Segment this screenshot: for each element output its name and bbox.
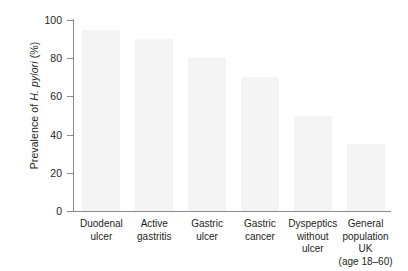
bar: [188, 58, 226, 211]
y-axis-title: Prevalence of H. pylori (%): [22, 0, 46, 211]
x-axis-category-label: Gastric ulcer: [177, 218, 238, 243]
x-axis-line: [73, 211, 391, 212]
bar: [135, 39, 173, 211]
y-axis-tick-label: 100: [22, 15, 62, 25]
x-axis-category-label: Duodenal ulcer: [71, 218, 132, 243]
y-axis-tick-label: 60: [22, 91, 62, 101]
y-axis-tick: [67, 211, 73, 212]
x-axis-category-label: Dyspeptics without ulcer: [282, 218, 343, 256]
bar-chart-figure: Prevalence of H. pylori (%) 020406080100…: [0, 0, 408, 271]
x-axis-category-label: Active gastritis: [124, 218, 185, 243]
y-axis-tick-label: 80: [22, 53, 62, 63]
plot-area: [73, 20, 390, 211]
x-axis-category-label: General population UK (age 18–60): [335, 218, 396, 268]
y-axis-tick-label: 0: [22, 206, 62, 216]
y-axis-tick-label: 40: [22, 130, 62, 140]
bar: [82, 30, 120, 211]
x-axis-labels: Duodenal ulcerActive gastritisGastric ul…: [73, 218, 390, 268]
bar: [241, 77, 279, 211]
y-axis-tick-label: 20: [22, 168, 62, 178]
x-axis-category-label: Gastric cancer: [230, 218, 291, 243]
bar: [347, 144, 385, 211]
bar: [294, 116, 332, 212]
